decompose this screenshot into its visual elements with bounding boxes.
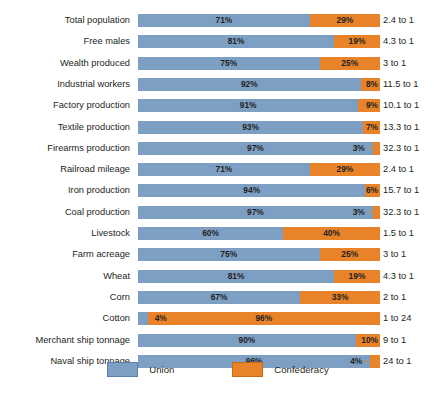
row-bar: 75%25%: [138, 248, 380, 261]
chart-row: Railroad mileage71%29%2.4 to 1: [0, 163, 436, 176]
row-bar: 71%29%: [138, 163, 380, 176]
row-ratio-annotation: 11.5 to 1: [383, 77, 419, 91]
bar-value-union: 81%: [138, 35, 334, 48]
bar-value-union: 92%: [138, 78, 361, 91]
bar-value-confederacy: 9%: [344, 99, 378, 112]
chart-row: Livestock60%40%1.5 to 1: [0, 227, 436, 240]
bar-value-union: 75%: [138, 57, 320, 70]
row-ratio-annotation: 4.3 to 1: [383, 34, 414, 48]
row-ratio-annotation: 1 to 24: [383, 311, 411, 325]
legend-label-union: Union: [149, 364, 174, 375]
chart-row: Wheat81%19%4.3 to 1: [0, 270, 436, 283]
row-category-label: Iron production: [0, 183, 130, 197]
row-ratio-annotation: 2 to 1: [383, 290, 406, 304]
row-category-label: Total population: [0, 13, 130, 27]
bar-value-confederacy: 33%: [300, 291, 380, 304]
row-category-label: Free males: [0, 34, 130, 48]
bar-value-confederacy: 10%: [344, 334, 378, 347]
chart-row: Free males81%19%4.3 to 1: [0, 35, 436, 48]
chart-row: Textile production93%7%13.3 to 1: [0, 121, 436, 134]
row-category-label: Wealth produced: [0, 56, 130, 70]
bar-value-union: 67%: [138, 291, 300, 304]
bar-value-union: 81%: [138, 270, 334, 283]
row-bar: 97%3%: [138, 206, 380, 219]
bar-value-union: 94%: [138, 184, 365, 197]
row-ratio-annotation: 2.4 to 1: [383, 13, 414, 27]
bar-value-confederacy: 6%: [344, 184, 378, 197]
row-ratio-annotation: 10.1 to 1: [383, 98, 419, 112]
leader-line-confederacy: [367, 148, 372, 149]
row-bar: 92%8%: [138, 78, 380, 91]
chart-row: Coal production97%3%32.3 to 1: [0, 206, 436, 219]
chart-row: Total population71%29%2.4 to 1: [0, 14, 436, 27]
chart-row: Wealth produced75%25%3 to 1: [0, 57, 436, 70]
row-bar: 60%40%: [138, 227, 380, 240]
bar-value-confederacy: 8%: [344, 78, 378, 91]
chart-row: Merchant ship tonnage90%10%9 to 1: [0, 334, 436, 347]
chart-row: Farm acreage75%25%3 to 1: [0, 248, 436, 261]
bar-value-union: 71%: [138, 14, 310, 27]
bar-value-confederacy: 19%: [334, 270, 380, 283]
chart-row: Corn67%33%2 to 1: [0, 291, 436, 304]
bar-value-union: 91%: [138, 99, 358, 112]
bar-value-union: 93%: [138, 121, 363, 134]
bar-value-confederacy: 3%: [331, 206, 365, 219]
chart-legend: Union Confederacy: [0, 358, 436, 380]
row-bar: 90%10%: [138, 334, 380, 347]
bar-segment-confederacy: [373, 206, 380, 219]
legend-swatch-union-icon: [107, 362, 138, 377]
bar-value-union: 90%: [138, 334, 356, 347]
bar-value-confederacy: 96%: [148, 312, 380, 325]
row-category-label: Railroad mileage: [0, 162, 130, 176]
row-category-label: Merchant ship tonnage: [0, 333, 130, 347]
bar-segment-union: [138, 312, 148, 325]
row-bar: 67%33%: [138, 291, 380, 304]
bar-value-union: 71%: [138, 163, 310, 176]
chart-row: Factory production91%9%10.1 to 1: [0, 99, 436, 112]
row-bar: 75%25%: [138, 57, 380, 70]
row-bar: 81%19%: [138, 270, 380, 283]
row-ratio-annotation: 1.5 to 1: [383, 226, 414, 240]
bar-value-confederacy: 40%: [283, 227, 380, 240]
legend-label-confederacy: Confederacy: [274, 364, 328, 375]
stacked-bar-chart: Total population71%29%2.4 to 1Free males…: [0, 0, 436, 397]
bar-value-confederacy: 25%: [320, 57, 381, 70]
bar-value-confederacy: 29%: [310, 163, 380, 176]
row-bar: 91%9%: [138, 99, 380, 112]
row-bar: 93%7%: [138, 121, 380, 134]
legend-item-union: Union: [107, 362, 174, 377]
chart-row: Firearms production97%3%32.3 to 1: [0, 142, 436, 155]
bar-value-confederacy: 25%: [320, 248, 381, 261]
bar-value-union: 75%: [138, 248, 320, 261]
row-category-label: Corn: [0, 290, 130, 304]
row-ratio-annotation: 2.4 to 1: [383, 162, 414, 176]
row-bar: 94%6%: [138, 184, 380, 197]
row-category-label: Wheat: [0, 269, 130, 283]
chart-row: Cotton4%96%1 to 24: [0, 312, 436, 325]
row-category-label: Livestock: [0, 226, 130, 240]
bar-value-confederacy: 19%: [334, 35, 380, 48]
row-category-label: Textile production: [0, 120, 130, 134]
row-ratio-annotation: 3 to 1: [383, 247, 406, 261]
bar-value-confederacy: 7%: [344, 121, 378, 134]
row-category-label: Factory production: [0, 98, 130, 112]
bar-segment-confederacy: [373, 142, 380, 155]
bar-value-confederacy: 3%: [331, 142, 365, 155]
row-bar: 81%19%: [138, 35, 380, 48]
chart-row: Industrial workers92%8%11.5 to 1: [0, 78, 436, 91]
row-ratio-annotation: 3 to 1: [383, 56, 406, 70]
row-ratio-annotation: 13.3 to 1: [383, 120, 419, 134]
row-ratio-annotation: 32.3 to 1: [383, 205, 419, 219]
bar-value-union: 60%: [138, 227, 283, 240]
legend-item-confederacy: Confederacy: [232, 362, 328, 377]
row-category-label: Farm acreage: [0, 247, 130, 261]
row-category-label: Coal production: [0, 205, 130, 219]
legend-swatch-confederacy-icon: [232, 362, 263, 377]
bar-value-confederacy: 29%: [310, 14, 380, 27]
row-ratio-annotation: 9 to 1: [383, 333, 406, 347]
row-ratio-annotation: 32.3 to 1: [383, 141, 419, 155]
row-category-label: Firearms production: [0, 141, 130, 155]
row-bar: 4%96%: [138, 312, 380, 325]
row-ratio-annotation: 15.7 to 1: [383, 183, 419, 197]
leader-line-confederacy: [367, 212, 372, 213]
